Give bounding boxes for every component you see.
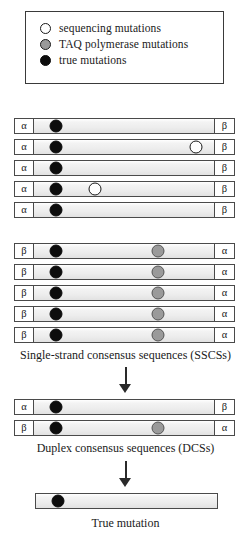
- strand-row: [35, 493, 218, 509]
- strand-cap-left: β: [14, 285, 34, 301]
- caption-sscs: Single-strand consensus sequences (SSCSs…: [0, 348, 251, 362]
- true-mutation-marker: [49, 329, 62, 342]
- down-arrow-icon: [119, 367, 132, 393]
- true-mutation-marker: [49, 422, 62, 435]
- strand-row: α β: [14, 399, 235, 415]
- strand-cap-left: β: [14, 306, 34, 322]
- strand-cap-right: α: [215, 420, 235, 436]
- taq-mutation-marker: [152, 422, 165, 435]
- strand-row: α β: [14, 202, 235, 218]
- strand-cap-right: α: [215, 243, 235, 259]
- legend-item-taq-polymerase-mutations: TAQ polymerase mutations: [40, 36, 188, 52]
- legend-item-label: true mutations: [59, 54, 127, 66]
- strand-row: β α: [14, 327, 235, 343]
- taq-mutation-marker: [152, 266, 165, 279]
- strand-body: [34, 202, 215, 218]
- true-mutation-marker: [49, 183, 62, 196]
- strand-row: α β: [14, 181, 235, 197]
- strand-body: [34, 139, 215, 155]
- strand-body: [34, 160, 215, 176]
- strand-row: α β: [14, 118, 235, 134]
- strand-cap-right: α: [215, 264, 235, 280]
- true-mutation-marker: [51, 495, 64, 508]
- strand-cap-right: β: [215, 202, 235, 218]
- strand-cap-left: β: [14, 327, 34, 343]
- strand-cap-right: β: [215, 118, 235, 134]
- strand-cap-left: β: [14, 243, 34, 259]
- taq-mutation-marker: [152, 308, 165, 321]
- strand-cap-right: β: [215, 181, 235, 197]
- black-circle-icon: [40, 55, 51, 66]
- strand-body: [34, 118, 215, 134]
- strand-cap-left: α: [14, 202, 34, 218]
- legend-item-label: sequencing mutations: [59, 22, 161, 34]
- strand-cap-left: α: [14, 160, 34, 176]
- strand-row: α β: [14, 139, 235, 155]
- true-mutation-marker: [49, 141, 62, 154]
- strand-cap-left: α: [14, 181, 34, 197]
- legend-item-sequencing-mutations: sequencing mutations: [40, 20, 161, 36]
- strand-body: [34, 264, 215, 280]
- strand-row: β α: [14, 243, 235, 259]
- caption-dcs: Duplex consensus sequences (DCSs): [0, 441, 251, 455]
- legend-box: sequencing mutations TAQ polymerase muta…: [25, 11, 224, 84]
- sequencing-mutation-marker: [89, 183, 102, 196]
- true-mutation-marker: [49, 204, 62, 217]
- strand-cap-right: α: [215, 285, 235, 301]
- legend-item-true-mutations: true mutations: [40, 52, 127, 68]
- strand-body: [34, 399, 215, 415]
- strand-body: [34, 420, 215, 436]
- strand-cap-right: α: [215, 306, 235, 322]
- strand-cap-left: α: [14, 118, 34, 134]
- strand-row: β α: [14, 264, 235, 280]
- strand-row: β α: [14, 306, 235, 322]
- strand-cap-right: β: [215, 160, 235, 176]
- strand-body: [34, 243, 215, 259]
- gray-circle-icon: [40, 39, 51, 50]
- down-arrow-icon: [119, 461, 132, 487]
- strand-cap-left: α: [14, 399, 34, 415]
- strand-row: α β: [14, 160, 235, 176]
- legend-item-label: TAQ polymerase mutations: [59, 38, 188, 50]
- true-mutation-marker: [49, 401, 62, 414]
- strand-cap-left: α: [14, 139, 34, 155]
- true-mutation-marker: [49, 308, 62, 321]
- sequencing-mutation-marker: [190, 141, 203, 154]
- strand-row: β α: [14, 285, 235, 301]
- caption-true-mutation: True mutation: [0, 516, 251, 530]
- true-mutation-marker: [49, 120, 62, 133]
- strand-body: [34, 285, 215, 301]
- taq-mutation-marker: [152, 287, 165, 300]
- strand-body: [34, 181, 215, 197]
- true-mutation-marker: [49, 162, 62, 175]
- strand-body: [34, 306, 215, 322]
- true-mutation-marker: [49, 266, 62, 279]
- strand-cap-right: β: [215, 139, 235, 155]
- taq-mutation-marker: [152, 329, 165, 342]
- strand-row: β α: [14, 420, 235, 436]
- strand-cap-right: β: [215, 399, 235, 415]
- strand-cap-left: β: [14, 264, 34, 280]
- taq-mutation-marker: [152, 245, 165, 258]
- strand-body: [34, 327, 215, 343]
- strand-cap-right: α: [215, 327, 235, 343]
- strand-body: [35, 493, 218, 509]
- true-mutation-marker: [49, 287, 62, 300]
- strand-cap-left: β: [14, 420, 34, 436]
- true-mutation-marker: [49, 245, 62, 258]
- open-circle-icon: [40, 23, 51, 34]
